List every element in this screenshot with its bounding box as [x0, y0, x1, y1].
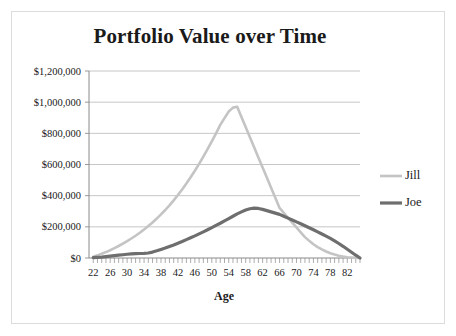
legend-label-joe: Joe [405, 195, 422, 209]
x-tick-label: 70 [291, 267, 302, 278]
plot-area: $0$200,000$400,000$600,000$800,000$1,000… [0, 0, 456, 336]
x-tick-label: 38 [156, 267, 167, 278]
x-tick-label: 34 [139, 267, 150, 278]
y-tick-label: $1,000,000 [34, 97, 81, 108]
x-tick-label: 62 [257, 267, 268, 278]
y-tick-label: $1,200,000 [34, 66, 81, 77]
x-tick-label: 42 [173, 267, 184, 278]
x-tick-label: 46 [190, 267, 201, 278]
gridlines [89, 71, 360, 227]
chart-legend: JillJoe [380, 168, 422, 209]
x-tick-label: 78 [325, 267, 336, 278]
y-tick-label: $400,000 [42, 190, 81, 201]
y-tick-label: $0 [71, 253, 82, 264]
x-tick-label: 22 [88, 267, 99, 278]
x-tick-label: 50 [207, 267, 218, 278]
y-tick-label: $800,000 [42, 128, 81, 139]
x-tick-label: 54 [223, 267, 234, 278]
series-line-jill [93, 107, 360, 258]
series-line-joe [93, 208, 360, 258]
x-axis-tick-labels: 22263034384246505458626670747882 [88, 267, 353, 278]
data-series [93, 107, 360, 258]
chart-figure: Portfolio Value over Time $0$200,000$400… [0, 0, 456, 336]
x-tick-label: 30 [122, 267, 133, 278]
y-axis-tick-labels: $0$200,000$400,000$600,000$800,000$1,000… [34, 66, 81, 264]
y-tick-label: $600,000 [42, 159, 81, 170]
x-tick-label: 58 [240, 267, 251, 278]
x-tick-label: 82 [342, 267, 353, 278]
x-tick-label: 66 [274, 267, 285, 278]
legend-label-jill: Jill [405, 168, 421, 182]
y-tick-label: $200,000 [42, 221, 81, 232]
x-tick-label: 74 [308, 267, 319, 278]
x-axis-title: Age [214, 289, 235, 303]
y-axis-ticks [85, 71, 89, 258]
x-axis-minor-ticks [93, 258, 360, 263]
x-tick-label: 26 [105, 267, 116, 278]
